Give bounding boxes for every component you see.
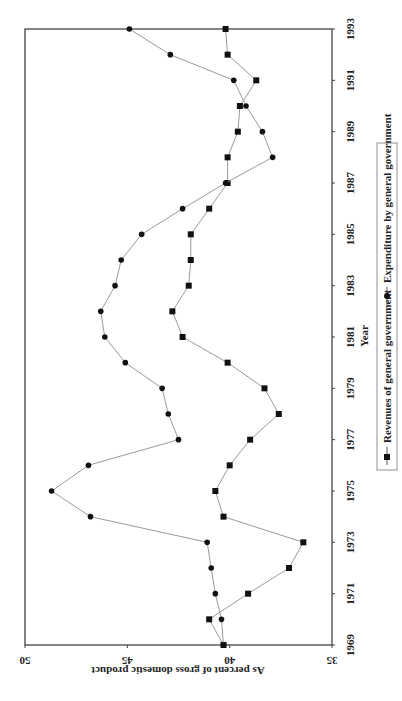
- square-marker: [227, 462, 233, 468]
- x-tick-label: 1983: [344, 274, 356, 297]
- circle-marker: [176, 437, 182, 443]
- circle-marker: [118, 257, 124, 263]
- y-tick-label: 35: [326, 655, 338, 667]
- circle-marker-icon: [384, 293, 390, 299]
- series-line-0: [172, 29, 303, 645]
- circle-marker: [221, 642, 227, 648]
- plot-frame: [25, 29, 332, 645]
- legend-label-expenditure: Expenditure by general government: [381, 113, 393, 283]
- square-marker: [206, 616, 212, 622]
- y-axis-title: As percent of gross domestic product: [91, 665, 265, 677]
- circle-marker: [168, 52, 174, 58]
- x-tick-label: 1979: [344, 377, 356, 400]
- circle-marker: [165, 411, 171, 417]
- x-tick-label: 1989: [344, 120, 356, 143]
- circle-marker: [49, 488, 55, 494]
- rotated-chart-stage: 35404550 1969197119731975197719791981198…: [0, 0, 402, 701]
- square-marker: [223, 26, 229, 32]
- legend-item-expenditure: Expenditure by general government: [381, 113, 393, 305]
- circle-marker: [112, 283, 118, 289]
- square-marker: [286, 565, 292, 571]
- circle-marker: [122, 360, 128, 366]
- square-marker: [235, 129, 241, 135]
- square-marker: [225, 52, 231, 58]
- x-tick-label: 1993: [344, 18, 356, 41]
- square-marker: [300, 539, 306, 545]
- circle-marker: [127, 26, 133, 32]
- x-axis-title: Year: [358, 325, 370, 347]
- square-marker: [237, 103, 243, 109]
- square-marker: [180, 334, 186, 340]
- square-marker: [188, 231, 194, 237]
- square-marker: [221, 514, 227, 520]
- square-marker: [276, 411, 282, 417]
- circle-marker: [88, 514, 94, 520]
- circle-marker: [180, 206, 186, 212]
- x-tick-label: 1975: [344, 480, 356, 503]
- circle-marker: [231, 78, 237, 84]
- circle-marker: [208, 565, 214, 571]
- legend-item-revenues: Revenues of general government: [381, 290, 393, 465]
- x-tick-label: 1985: [344, 223, 356, 246]
- x-tick-label: 1987: [344, 172, 356, 195]
- circle-marker: [98, 309, 104, 315]
- square-marker: [186, 283, 192, 289]
- circle-marker: [219, 617, 225, 623]
- series-line-1: [52, 29, 273, 645]
- circle-marker: [213, 591, 219, 597]
- square-marker: [169, 308, 175, 314]
- series-layer: [49, 26, 307, 648]
- x-tick-label: 1971: [344, 583, 356, 605]
- circle-marker: [223, 180, 229, 186]
- line-chart: 35404550 1969197119731975197719791981198…: [0, 0, 402, 701]
- legend-label-revenues: Revenues of general government: [381, 290, 393, 443]
- circle-marker: [139, 232, 145, 238]
- square-marker: [206, 206, 212, 212]
- x-tick-label: 1973: [344, 531, 356, 554]
- x-tick-label: 1981: [344, 326, 356, 348]
- x-tick-label: 1991: [344, 69, 356, 91]
- x-axis-ticks: 1969197119731975197719791981198319851987…: [332, 18, 356, 657]
- circle-marker: [204, 540, 210, 546]
- square-marker-icon: [384, 454, 390, 460]
- circle-marker: [243, 103, 249, 109]
- y-tick-label: 50: [19, 655, 31, 667]
- y-axis-ticks: 35404550: [19, 645, 338, 667]
- circle-marker: [102, 334, 108, 340]
- square-marker: [225, 154, 231, 160]
- square-marker: [212, 488, 218, 494]
- circle-marker: [260, 129, 266, 135]
- square-marker: [225, 360, 231, 366]
- legend: Revenues of general government Expenditu…: [377, 113, 397, 470]
- circle-marker: [270, 155, 276, 161]
- square-marker: [247, 437, 253, 443]
- square-marker: [253, 77, 259, 83]
- x-tick-label: 1969: [344, 634, 356, 657]
- square-marker: [261, 385, 267, 391]
- square-marker: [188, 257, 194, 263]
- circle-marker: [159, 386, 165, 392]
- x-tick-label: 1977: [344, 428, 356, 451]
- circle-marker: [86, 463, 92, 469]
- square-marker: [245, 591, 251, 597]
